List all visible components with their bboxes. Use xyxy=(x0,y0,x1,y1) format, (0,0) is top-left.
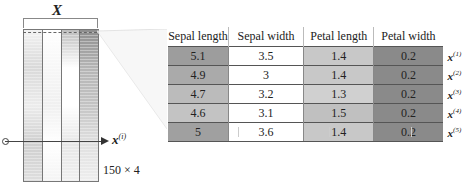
row-arrow-line xyxy=(5,141,103,142)
table-cell: 1.3 xyxy=(304,85,374,104)
table-row: 5.13.51.40.2x(1) xyxy=(168,47,469,66)
table-cell: 0.2 xyxy=(374,85,443,104)
table-cell: 3.2 xyxy=(228,85,303,104)
zoom-projection-lines xyxy=(97,29,167,129)
data-matrix xyxy=(23,29,99,182)
table-cell: 4.6 xyxy=(168,104,228,123)
table-cell: 1.4 xyxy=(304,66,374,85)
arrow-head-icon xyxy=(101,137,109,145)
table-cell: 4.7 xyxy=(168,85,228,104)
table-cell: 0.2 xyxy=(374,66,443,85)
row-vector-label: x(4) xyxy=(443,104,469,123)
table-cell: 1.4 xyxy=(304,47,374,66)
matrix-column-petal-length xyxy=(62,30,81,181)
table-cell: 3.5 xyxy=(228,47,303,66)
table-cell: 3 xyxy=(228,66,303,85)
header-petal-width: Petal width xyxy=(374,27,443,47)
matrix-title: X xyxy=(52,2,62,19)
matrix-column-sepal-length xyxy=(24,30,43,181)
matrix-column-petal-width xyxy=(80,30,98,181)
row-vector-label: x(i) xyxy=(112,132,126,148)
table-cell: 5.1 xyxy=(168,47,228,66)
row-vector-label: x(2) xyxy=(443,66,469,85)
table-row: 4.931.40.2x(2) xyxy=(168,66,469,85)
matrix-brace xyxy=(23,18,98,28)
table-row: 4.73.21.30.2x(3) xyxy=(168,85,469,104)
table-cell: 4.9 xyxy=(168,66,228,85)
iris-data-table: Sepal length Sepal width Petal length Pe… xyxy=(168,27,469,142)
table-cell: 0.2 xyxy=(374,104,443,123)
table-extension-lines xyxy=(168,127,469,137)
matrix-column-sepal-width xyxy=(43,30,62,181)
table-cell: 0.2 xyxy=(374,47,443,66)
matrix-dimensions: 150 × 4 xyxy=(103,163,140,178)
header-sepal-length: Sepal length xyxy=(168,27,228,47)
table-cell: 1.5 xyxy=(304,104,374,123)
table-cell: 3.1 xyxy=(228,104,303,123)
header-petal-length: Petal length xyxy=(304,27,374,47)
table-row: 4.63.11.50.2x(4) xyxy=(168,104,469,123)
first-rows-dashed-line xyxy=(23,32,97,33)
row-vector-label: x(1) xyxy=(443,47,469,66)
row-vector-label: x(3) xyxy=(443,85,469,104)
table-header-row: Sepal length Sepal width Petal length Pe… xyxy=(168,27,469,47)
header-sepal-width: Sepal width xyxy=(228,27,303,47)
